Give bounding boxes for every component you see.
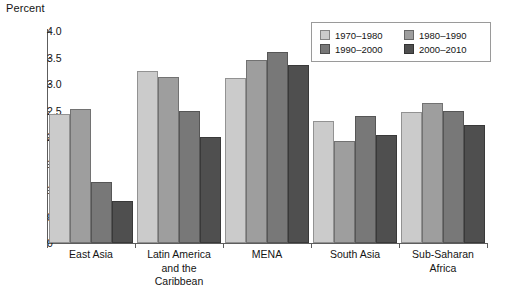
category-label-line: Latin America [135,248,223,262]
bar [179,111,200,244]
legend-label: 1970–1980 [335,30,383,41]
x-axis-category-label: Sub-SaharanAfrica [399,248,487,275]
bar [422,103,443,243]
category-label-line: and the [135,262,223,276]
legend-item: 1980–1990 [404,30,482,41]
legend-swatch [320,30,330,40]
x-axis-category-label: East Asia [47,248,135,262]
category-label-line: Sub-Saharan [399,248,487,262]
bar [334,141,355,243]
bar [70,109,91,243]
bar [401,112,422,243]
legend-label: 1980–1990 [419,30,467,41]
bar [137,71,158,243]
bar [313,121,334,243]
bar [355,116,376,243]
bar [267,52,288,243]
category-label-line: South Asia [311,248,399,262]
x-axis-category-label: South Asia [311,248,399,262]
x-axis-category-label: Latin Americaand theCaribbean [135,248,223,289]
bar [443,111,464,244]
legend-swatch [404,44,414,54]
bar [376,135,397,243]
bar [49,114,70,243]
y-axis-title: Percent [6,2,45,14]
legend-label: 2000–2010 [419,44,467,55]
x-axis-tick-mark [487,243,488,248]
category-label-line: Africa [399,262,487,276]
x-axis-category-label: MENA [223,248,311,262]
bar [112,201,133,243]
legend-label: 1990–2000 [335,44,383,55]
bar-group [47,0,135,243]
legend-item: 2000–2010 [404,44,482,55]
bar [158,77,179,243]
category-label-line: East Asia [47,248,135,262]
bar [91,182,112,243]
bar [225,78,246,243]
legend: 1970–19801980–19901990–20002000–2010 [311,22,491,62]
bar [246,60,267,243]
legend-swatch [320,44,330,54]
x-axis-category-labels: East AsiaLatin Americaand theCaribbeanME… [47,248,487,298]
bar [464,125,485,243]
bar-group [223,0,311,243]
bar-chart: Percent 00.51.01.52.02.53.03.54.0 East A… [0,0,505,298]
category-label-line: MENA [223,248,311,262]
legend-item: 1970–1980 [320,30,398,41]
bar [288,65,309,243]
bar [200,137,221,243]
x-axis-line [47,243,487,244]
category-label-line: Caribbean [135,275,223,289]
legend-item: 1990–2000 [320,44,398,55]
bar-group [135,0,223,243]
legend-swatch [404,30,414,40]
